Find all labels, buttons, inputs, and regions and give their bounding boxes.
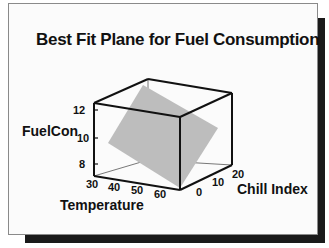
x-axis-label: Temperature (60, 197, 144, 213)
box-edge (180, 93, 232, 117)
z-axis-label: FuelCon (22, 123, 78, 139)
y-tick-label: 10 (212, 176, 224, 188)
z-tick-label: 12 (73, 104, 85, 116)
z-tick-label: 8 (79, 158, 85, 170)
x-tick-label: 50 (131, 184, 143, 196)
z-tick-label: 10 (77, 132, 89, 144)
box-edge (148, 79, 232, 93)
chart-3d: 12 10 8 30 40 50 60 0 10 20 FuelCon Temp… (0, 0, 329, 248)
x-tick-label: 30 (86, 178, 98, 190)
y-tick-label: 0 (196, 186, 202, 198)
best-fit-plane (108, 85, 218, 188)
y-tick-label: 20 (232, 168, 244, 180)
y-axis-label: Chill Index (237, 181, 308, 197)
x-tick-label: 60 (154, 188, 166, 200)
x-tick-label: 40 (108, 181, 120, 193)
